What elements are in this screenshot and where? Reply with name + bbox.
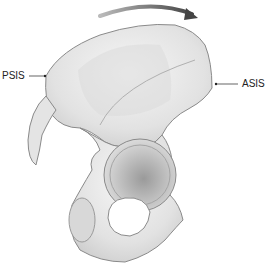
- coccyx: [28, 96, 56, 165]
- asis-dot: [215, 83, 217, 85]
- psis-dot: [44, 75, 46, 77]
- rotation-arrow-head: [184, 8, 198, 20]
- pubic-symphysis: [69, 198, 95, 242]
- rotation-arrow: [100, 6, 192, 16]
- psis-label: PSIS: [2, 71, 25, 81]
- pelvis-diagram: [0, 0, 274, 267]
- asis-label: ASIS: [242, 79, 265, 89]
